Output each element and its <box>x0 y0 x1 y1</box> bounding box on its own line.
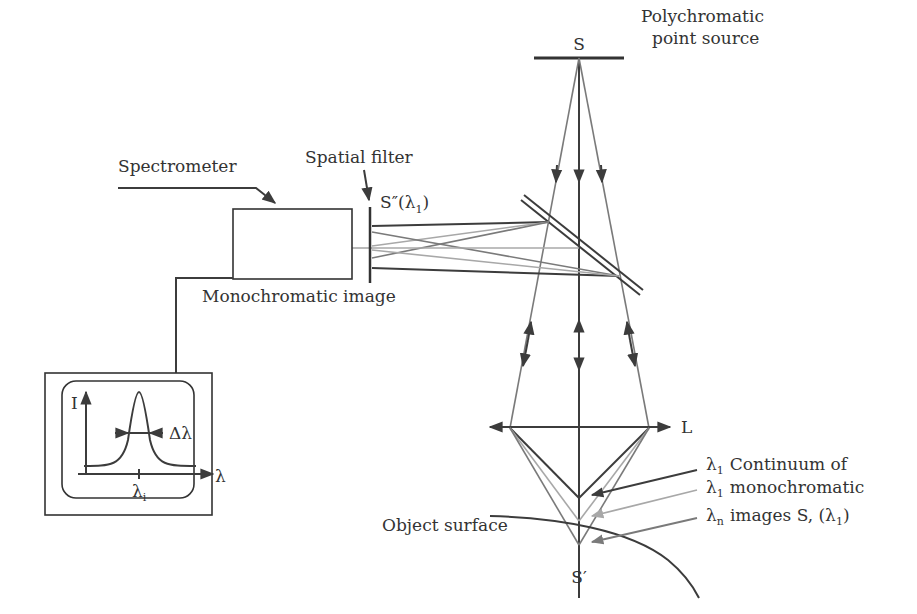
filter-image-label: S″(λ1) <box>380 192 429 216</box>
x-axis-label: λ <box>215 466 226 486</box>
incident-rays <box>510 58 649 598</box>
source-desc-line2: point source <box>652 28 759 48</box>
continuum-annotation: λ1Continuum of λ1monochromatic λnimages … <box>592 454 864 542</box>
continuum-line3: λnimages S, (λ1) <box>706 505 850 528</box>
source-label: S <box>573 34 585 54</box>
spectrometer: Spectrometer Monochromatic image <box>118 156 396 373</box>
continuum-line2: λ1monochromatic <box>706 477 864 500</box>
object-surface: Object surface S′ <box>382 515 699 598</box>
beam-splitter <box>521 195 643 295</box>
point-source: S Polychromatic point source <box>534 6 764 58</box>
object-surface-label: Object surface <box>382 515 508 535</box>
bandwidth-label: Δλ <box>169 423 192 443</box>
peak-wavelength-label: λi <box>132 481 147 504</box>
spectrometer-label: Spectrometer <box>118 156 237 176</box>
chromatic-confocal-diagram: S Polychromatic point source <box>0 0 917 614</box>
y-axis-label: I <box>71 393 78 413</box>
monochromatic-image-label: Monochromatic image <box>202 286 396 306</box>
spatial-filter-label: Spatial filter <box>305 147 414 167</box>
source-desc-line1: Polychromatic <box>641 6 764 26</box>
spectrum-display: I λ Δλ λi <box>45 373 226 515</box>
continuum-line1: λ1Continuum of <box>706 454 849 477</box>
focus-point-label: S′ <box>571 567 587 587</box>
lens-label: L <box>681 417 692 437</box>
spatial-filter: Spatial filter S″(λ1) <box>305 147 429 283</box>
lens: L <box>490 417 692 437</box>
